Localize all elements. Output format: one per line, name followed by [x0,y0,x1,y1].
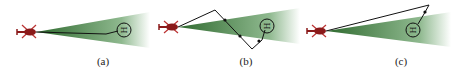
sensor-cone [326,12,451,47]
helicopter-icon [307,25,326,37]
crossing-marker [257,39,260,42]
caption-b: (b) [231,55,261,67]
svg-text:H: H [408,27,418,34]
sensor-cone [178,8,300,44]
svg-text:H: H [262,23,272,30]
sensor-cone [36,12,150,48]
helicopter-icon [159,21,178,33]
svg-text:H: H [119,27,129,34]
crossing-marker [223,18,226,21]
crossing-marker [238,34,241,37]
caption-c: (c) [386,55,416,67]
crossing-marker [423,10,426,13]
caption-a: (a) [88,55,118,67]
panel-c: H (c) [300,0,451,74]
panel-b: H (b) [150,0,300,74]
helicopter-icon [17,25,36,38]
panel-a: H (a) [0,0,150,74]
